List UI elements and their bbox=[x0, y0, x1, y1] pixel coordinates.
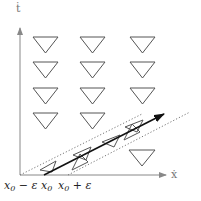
triangle-icon bbox=[33, 37, 58, 53]
triangle-icon bbox=[130, 37, 155, 53]
triangle-grid bbox=[33, 37, 155, 166]
triangle-icon bbox=[130, 62, 155, 78]
triangle-icon bbox=[33, 62, 58, 78]
trajectory-arrow bbox=[44, 114, 164, 175]
triangle-icon bbox=[33, 88, 58, 104]
triangle-icon bbox=[130, 88, 155, 104]
triangle-icon bbox=[80, 113, 105, 129]
triangle-icon bbox=[129, 150, 155, 166]
y-axis-label: ṫ bbox=[16, 3, 20, 14]
tick-label-x0-plus-eps: x0 + ε bbox=[58, 180, 91, 193]
x-axis-label: ẋ bbox=[171, 169, 177, 180]
triangle-icon bbox=[80, 62, 105, 78]
triangle-icon bbox=[80, 88, 105, 104]
tick-label-x0-minus-eps: x0 − ε bbox=[4, 180, 37, 193]
triangle-icon bbox=[33, 113, 58, 129]
triangle-icon bbox=[80, 37, 105, 53]
tick-label-x0: x0 bbox=[41, 180, 52, 193]
